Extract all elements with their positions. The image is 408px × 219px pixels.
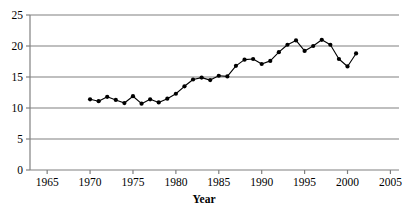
x-axis-tick-labels: 196519701975198019851990199520002005 — [36, 176, 403, 188]
y-tick-label-10: 10 — [12, 102, 24, 114]
x-axis-title: Year — [193, 193, 216, 205]
data-point — [88, 97, 92, 101]
series-1-line — [90, 40, 356, 104]
data-point — [208, 78, 212, 82]
data-point — [217, 74, 221, 78]
data-point — [268, 59, 272, 63]
data-point — [311, 44, 315, 48]
x-tick-label-1990: 1990 — [250, 176, 273, 188]
y-tick-label-0: 0 — [17, 164, 23, 176]
data-point — [320, 38, 324, 42]
x-tick-label-1985: 1985 — [207, 176, 230, 188]
y-tick-label-15: 15 — [12, 71, 24, 83]
data-point — [328, 43, 332, 47]
data-point — [174, 92, 178, 96]
data-point — [285, 43, 289, 47]
data-point — [139, 102, 143, 106]
data-point — [165, 97, 169, 101]
x-tick-label-1970: 1970 — [79, 176, 102, 188]
y-tick-label-5: 5 — [17, 133, 23, 145]
data-point — [200, 76, 204, 80]
gridlines — [30, 15, 399, 139]
x-tick-label-1975: 1975 — [121, 176, 144, 188]
y-axis-tick-labels: 0510152025 — [12, 9, 24, 176]
x-tick-label-2000: 2000 — [336, 176, 359, 188]
data-points — [88, 38, 358, 106]
data-point — [337, 57, 341, 61]
x-axis-ticks — [47, 170, 390, 174]
line-chart: 0510152025 19651970197519801985199019952… — [0, 0, 408, 219]
x-tick-label-1980: 1980 — [164, 176, 187, 188]
x-tick-label-2005: 2005 — [379, 176, 402, 188]
data-point — [251, 57, 255, 61]
y-tick-label-20: 20 — [12, 40, 24, 52]
data-point — [131, 94, 135, 98]
data-point — [303, 49, 307, 53]
data-point — [105, 95, 109, 99]
data-point — [294, 38, 298, 42]
data-point — [234, 64, 238, 68]
data-point — [182, 84, 186, 88]
data-point — [191, 77, 195, 81]
data-point — [354, 51, 358, 55]
data-point — [122, 101, 126, 105]
data-point — [97, 99, 101, 103]
y-tick-label-25: 25 — [12, 9, 24, 21]
data-point — [345, 64, 349, 68]
data-point — [148, 97, 152, 101]
x-tick-label-1965: 1965 — [36, 176, 59, 188]
chart-plot-area: 0510152025 19651970197519801985199019952… — [0, 0, 408, 219]
data-point — [260, 62, 264, 66]
x-tick-label-1995: 1995 — [293, 176, 316, 188]
data-point — [277, 50, 281, 54]
data-point — [242, 58, 246, 62]
data-line — [90, 40, 356, 104]
data-point — [225, 74, 229, 78]
data-point — [157, 100, 161, 104]
data-point — [114, 98, 118, 102]
